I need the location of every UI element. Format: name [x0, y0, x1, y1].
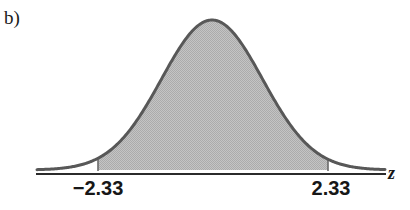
tick-label-upper-bound: 2.33 — [312, 178, 351, 198]
normal-distribution-figure: b) −2.33 2.33 z — [0, 0, 410, 210]
tick-label-lower-bound: −2.33 — [73, 178, 124, 198]
shaded-area — [37, 20, 385, 170]
axis-variable-label: z — [388, 164, 395, 182]
